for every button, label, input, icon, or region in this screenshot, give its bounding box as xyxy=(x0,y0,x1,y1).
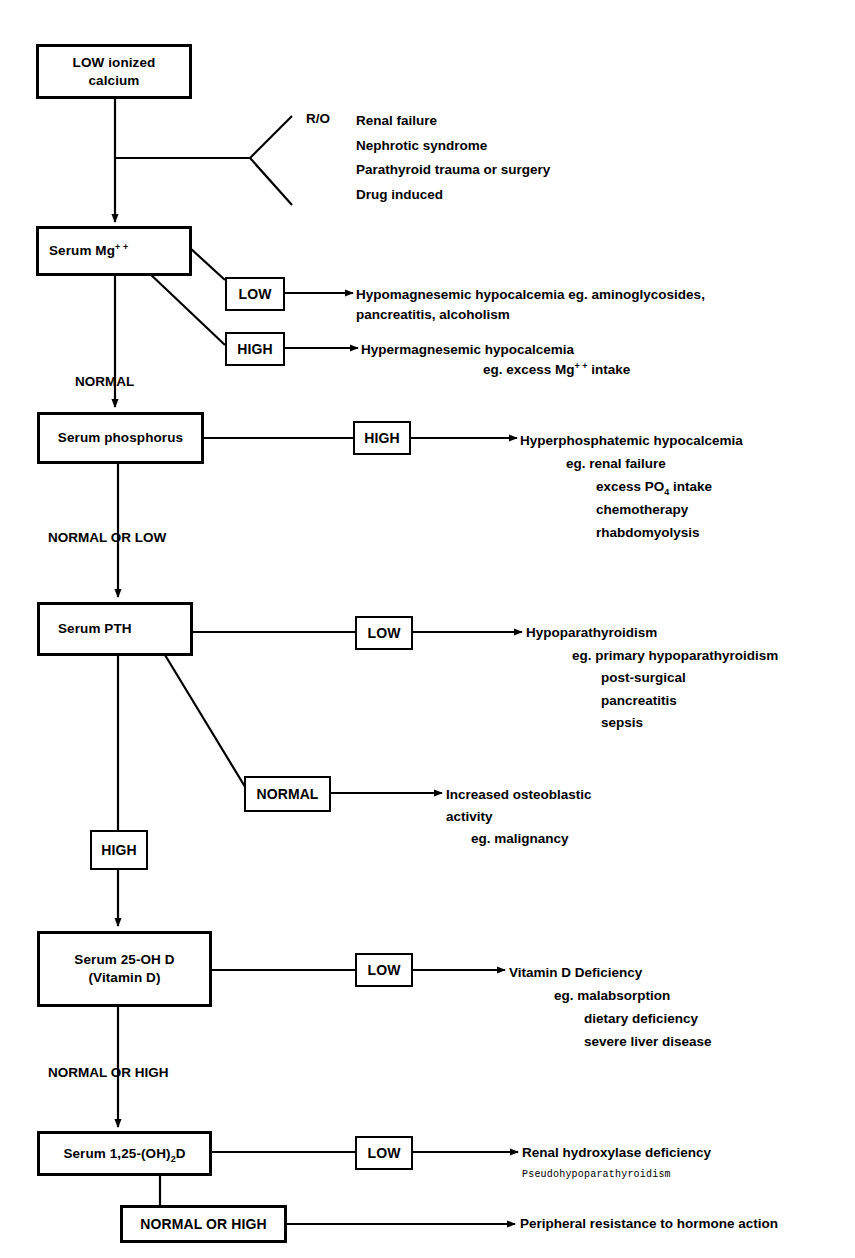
node-low-ionized-calcium-line1: LOW ionized xyxy=(73,54,156,72)
outcome-hyperphosphatemic-item: rhabdomyolysis xyxy=(520,521,743,544)
branch-pth-normal: NORMAL xyxy=(244,776,331,812)
node-serum-phosphorus-label: Serum phosphorus xyxy=(58,429,183,447)
outcome-hypomagnesemic-line1: Hypomagnesemic hypocalcemia eg. aminogly… xyxy=(356,285,705,305)
branch-pth-low-label: LOW xyxy=(368,624,401,642)
outcome-hypoparathyroidism-eg: eg. primary hypoparathyroidism xyxy=(526,645,778,668)
outcome-vitamin-d-deficiency-title: Vitamin D Deficiency xyxy=(509,961,712,984)
flowchart-canvas: LOW ionized calcium Serum Mg+ + Serum ph… xyxy=(0,0,855,1258)
rule-out-item: Renal failure xyxy=(356,109,550,134)
rule-out-item: Nephrotic syndrome xyxy=(356,134,550,159)
node-serum-magnesium-label: Serum Mg+ + xyxy=(49,242,128,260)
node-serum-vitamin-d-line1: Serum 25-OH D xyxy=(74,951,174,969)
outcome-peripheral-resistance: Peripheral resistance to hormone action xyxy=(520,1214,778,1234)
node-low-ionized-calcium: LOW ionized calcium xyxy=(36,44,192,99)
outcome-vitamin-d-deficiency-eg: eg. malabsorption xyxy=(509,984,712,1007)
rule-out-prefix: R/O xyxy=(306,109,330,129)
outcome-hyperphosphatemic-po4: excess PO4 intake xyxy=(520,475,743,498)
branch-mg-low-label: LOW xyxy=(239,285,272,303)
outcome-hyperphosphatemic: Hyperphosphatemic hypocalcemia eg. renal… xyxy=(520,429,743,544)
branch-phos-high: HIGH xyxy=(353,421,411,455)
node-serum-pth-label: Serum PTH xyxy=(58,620,132,638)
outcome-vitamin-d-deficiency-item: dietary deficiency xyxy=(509,1007,712,1030)
branch-pth-low: LOW xyxy=(355,616,413,650)
outcome-hypoparathyroidism: Hypoparathyroidism eg. primary hypoparat… xyxy=(526,622,778,735)
outcome-osteoblastic-line1: Increased osteoblastic xyxy=(446,784,592,806)
edge-label-phos-normal-or-low: NORMAL OR LOW xyxy=(48,528,166,547)
branch-pth-high: HIGH xyxy=(90,830,148,870)
outcome-hypermagnesemic-eg: eg. excess Mg+ + intake xyxy=(361,360,630,380)
outcome-osteoblastic-line2: activity xyxy=(446,806,592,828)
outcome-pseudohypoparathyroidism: Pseudohypoparathyroidism xyxy=(522,1164,711,1186)
branch-mg-high: HIGH xyxy=(225,332,285,366)
node-serum-pth: Serum PTH xyxy=(37,602,193,656)
outcome-osteoblastic-eg: eg. malignancy xyxy=(446,828,592,850)
outcome-hypermagnesemic-title: Hypermagnesemic hypocalcemia xyxy=(361,340,630,360)
branch-calcitriol-normal-or-high-label: NORMAL OR HIGH xyxy=(140,1215,266,1233)
branch-mg-high-label: HIGH xyxy=(237,340,272,358)
branch-vitd-low: LOW xyxy=(355,953,413,987)
outcome-vitamin-d-deficiency: Vitamin D Deficiency eg. malabsorption d… xyxy=(509,961,712,1053)
outcome-hyperphosphatemic-title: Hyperphosphatemic hypocalcemia xyxy=(520,429,743,452)
node-serum-vitamin-d: Serum 25-OH D (Vitamin D) xyxy=(37,931,212,1007)
branch-calcitriol-normal-or-high: NORMAL OR HIGH xyxy=(120,1205,287,1243)
branch-vitd-low-label: LOW xyxy=(368,961,401,979)
outcome-renal-hydroxylase: Renal hydroxylase deficiency Pseudohypop… xyxy=(522,1142,711,1186)
branch-pth-normal-label: NORMAL xyxy=(256,785,318,803)
outcome-vitamin-d-deficiency-item: severe liver disease xyxy=(509,1030,712,1053)
node-low-ionized-calcium-line2: calcium xyxy=(89,72,140,90)
rule-out-item: Drug induced xyxy=(356,183,550,208)
edge-label-mg-normal: NORMAL xyxy=(75,372,134,391)
branch-calcitriol-low: LOW xyxy=(355,1136,413,1170)
outcome-hypoparathyroidism-item: sepsis xyxy=(526,712,778,735)
branch-calcitriol-low-label: LOW xyxy=(368,1144,401,1162)
rule-out-item: Parathyroid trauma or surgery xyxy=(356,158,550,183)
node-serum-calcitriol: Serum 1,25-(OH)2D xyxy=(37,1131,212,1176)
outcome-hypoparathyroidism-item: post-surgical xyxy=(526,667,778,690)
node-serum-magnesium: Serum Mg+ + xyxy=(36,226,192,276)
outcome-osteoblastic: Increased osteoblastic activity eg. mali… xyxy=(446,784,592,850)
outcome-hyperphosphatemic-eg: eg. renal failure xyxy=(520,452,743,475)
branch-phos-high-label: HIGH xyxy=(364,429,399,447)
outcome-hyperphosphatemic-item: chemotherapy xyxy=(520,498,743,521)
outcome-hypomagnesemic: Hypomagnesemic hypocalcemia eg. aminogly… xyxy=(356,285,705,324)
edge-label-vitd-normal-or-high: NORMAL OR HIGH xyxy=(48,1063,169,1082)
node-serum-calcitriol-label: Serum 1,25-(OH)2D xyxy=(63,1145,185,1163)
outcome-hypoparathyroidism-item: pancreatitis xyxy=(526,690,778,713)
node-serum-phosphorus: Serum phosphorus xyxy=(37,412,204,464)
outcome-hypoparathyroidism-title: Hypoparathyroidism xyxy=(526,622,778,645)
outcome-renal-hydroxylase-title: Renal hydroxylase deficiency xyxy=(522,1142,711,1164)
branch-pth-high-label: HIGH xyxy=(101,841,136,859)
rule-out-list: Renal failure Nephrotic syndrome Parathy… xyxy=(356,109,550,207)
outcome-hypermagnesemic: Hypermagnesemic hypocalcemia eg. excess … xyxy=(361,340,630,379)
branch-mg-low: LOW xyxy=(225,277,285,311)
outcome-hypomagnesemic-line2: pancreatitis, alcoholism xyxy=(356,305,705,325)
node-serum-vitamin-d-line2: (Vitamin D) xyxy=(88,969,160,987)
